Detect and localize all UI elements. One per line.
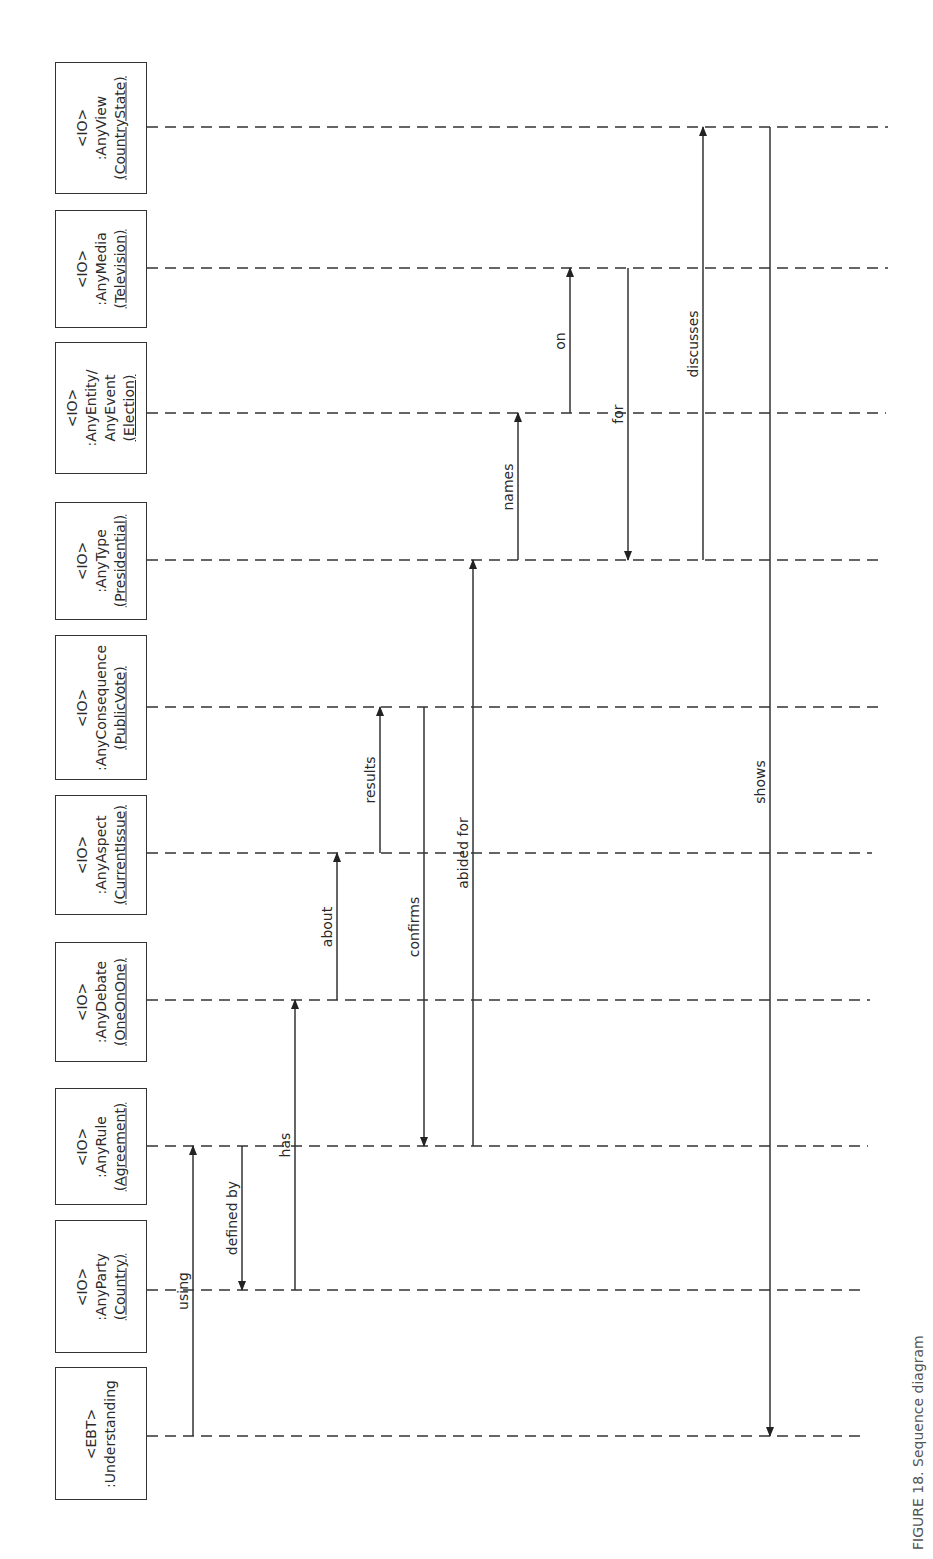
lifeline-box-rule: <IO>:AnyRule(Agreement) bbox=[55, 1088, 147, 1205]
lifeline-name: :AnyConsequence bbox=[92, 644, 111, 770]
message-label: abided for bbox=[455, 817, 471, 888]
lifeline-name: :AnyRule bbox=[92, 1102, 111, 1191]
lifeline-box-view: <IO>:AnyView(CountryState) bbox=[55, 62, 147, 194]
message-label: shows bbox=[752, 760, 768, 803]
lifeline-name-continued: AnyEvent bbox=[101, 369, 120, 446]
message-label: about bbox=[319, 906, 335, 946]
lifeline-name: :AnyAspect bbox=[92, 805, 111, 905]
message-label: using bbox=[175, 1272, 191, 1310]
lifeline-stereotype: <IO> bbox=[73, 644, 92, 770]
lifeline-name: :AnyView bbox=[92, 76, 111, 180]
lifeline-name: :AnyDebate bbox=[92, 958, 111, 1046]
lifeline-stereotype: <IO> bbox=[73, 958, 92, 1046]
lifeline-name: :AnyType bbox=[92, 515, 111, 608]
figure-caption-text: FIGURE 18. Sequence diagram bbox=[910, 1335, 926, 1550]
lifeline-label: <EBT>:Understanding bbox=[82, 1380, 120, 1488]
lifeline-box-debate: <IO>:AnyDebate(OneOnOne) bbox=[55, 942, 147, 1062]
lifeline-box-aspect: <IO>:AnyAspect(CurrentIssue) bbox=[55, 795, 147, 915]
lifeline-box-understanding: <EBT>:Understanding bbox=[55, 1367, 147, 1500]
lifeline-label: <IO>:AnyMedia(Television) bbox=[73, 229, 130, 308]
lifeline-stereotype: <IO> bbox=[73, 1253, 92, 1320]
lifeline-label: <IO>:AnyType(Presidential) bbox=[73, 515, 130, 608]
lifeline-label: <IO>:AnyAspect(CurrentIssue) bbox=[73, 805, 130, 905]
lifeline-box-type: <IO>:AnyType(Presidential) bbox=[55, 502, 147, 620]
lifeline-stereotype: <IO> bbox=[73, 515, 92, 608]
lifeline-instance: (CurrentIssue) bbox=[111, 805, 130, 905]
message-label: discusses bbox=[685, 310, 701, 377]
lifeline-instance: (Television) bbox=[111, 229, 130, 308]
figure-caption-fragment: FIGURE 18. Sequence diagram bbox=[906, 1300, 933, 1559]
lifeline-name: :AnyParty bbox=[92, 1253, 111, 1320]
message-label: confirms bbox=[406, 896, 422, 956]
lifeline-label: <IO>:AnyDebate(OneOnOne) bbox=[73, 958, 130, 1046]
lifeline-stereotype: <IO> bbox=[73, 76, 92, 180]
message-label: has bbox=[277, 1133, 293, 1158]
lifeline-name: :AnyEntity/ bbox=[82, 369, 101, 446]
lifeline-box-party: <IO>:AnyParty(Country) bbox=[55, 1220, 147, 1353]
lifeline-box-media: <IO>:AnyMedia(Television) bbox=[55, 210, 147, 328]
lifeline-stereotype: <IO> bbox=[73, 1102, 92, 1191]
message-label: results bbox=[362, 757, 378, 804]
lifeline-instance: (OneOnOne) bbox=[111, 958, 130, 1046]
lifeline-instance: (Election) bbox=[120, 369, 139, 446]
message-label: on bbox=[552, 332, 568, 349]
lifeline-stereotype: <EBT> bbox=[82, 1380, 101, 1488]
message-label: for bbox=[610, 404, 626, 423]
message-label: names bbox=[500, 463, 516, 510]
lifeline-label: <IO>:AnyEntity/AnyEvent(Election) bbox=[63, 369, 139, 446]
lifeline-instance: (CountryState) bbox=[111, 76, 130, 180]
lifeline-instance: (Agreement) bbox=[111, 1102, 130, 1191]
lifeline-stereotype: <IO> bbox=[73, 805, 92, 905]
lifeline-name: :AnyMedia bbox=[92, 229, 111, 308]
lifeline-label: <IO>:AnyRule(Agreement) bbox=[73, 1102, 130, 1191]
lifeline-label: <IO>:AnyParty(Country) bbox=[73, 1253, 130, 1320]
lifeline-name: :Understanding bbox=[101, 1380, 120, 1488]
lifeline-instance: (Country) bbox=[111, 1253, 130, 1320]
lifeline-stereotype: <IO> bbox=[63, 369, 82, 446]
lifeline-box-entity: <IO>:AnyEntity/AnyEvent(Election) bbox=[55, 342, 147, 474]
lifeline-label: <IO>:AnyConsequence(PublicVote) bbox=[73, 644, 130, 770]
lifeline-dashed-lines bbox=[147, 127, 888, 1436]
message-arrows bbox=[193, 127, 770, 1436]
lifeline-instance: (PublicVote) bbox=[111, 644, 130, 770]
lifeline-label: <IO>:AnyView(CountryState) bbox=[73, 76, 130, 180]
message-label: defined by bbox=[224, 1181, 240, 1255]
lifeline-instance: (Presidential) bbox=[111, 515, 130, 608]
lifeline-stereotype: <IO> bbox=[73, 229, 92, 308]
sequence-diagram: <IO>:AnyView(CountryState)<IO>:AnyMedia(… bbox=[0, 0, 933, 1559]
lifeline-box-consequence: <IO>:AnyConsequence(PublicVote) bbox=[55, 635, 147, 780]
